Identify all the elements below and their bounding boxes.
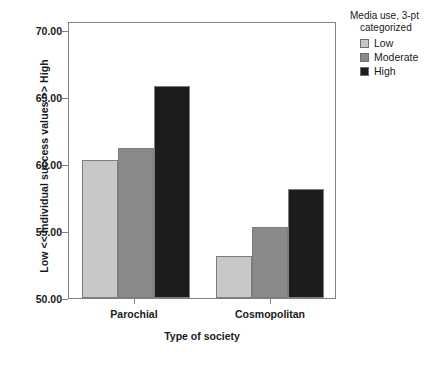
legend-item-high: High (350, 65, 440, 77)
y-axis-tick-labels: 70.00 65.00 60.00 55.00 50.00 (18, 0, 62, 366)
bar-cosmopolitan-high (288, 189, 324, 298)
legend-label: Low (374, 37, 393, 49)
bar-parochial-low (82, 160, 118, 299)
y-tick-label: 50.00 (18, 294, 62, 305)
legend-title: Media use, 3-pt categorized (350, 10, 440, 34)
bars-layer (69, 23, 335, 298)
y-tick-label: 60.00 (18, 160, 62, 171)
legend-swatch-moderate-icon (360, 53, 369, 62)
bar-cosmopolitan-moderate (252, 227, 288, 298)
legend-items: LowModerateHigh (350, 37, 440, 77)
legend-label: Moderate (374, 51, 418, 63)
y-tick-mark (62, 299, 68, 300)
bar-cosmopolitan-low (216, 256, 252, 298)
bar-parochial-moderate (118, 148, 154, 298)
bar-parochial-high (154, 86, 190, 298)
x-tick-mark (134, 299, 135, 304)
legend-item-moderate: Moderate (350, 51, 440, 63)
legend-swatch-low-icon (360, 39, 369, 48)
plot-area (68, 22, 336, 299)
legend-title-line-2: categorized (350, 22, 440, 34)
x-axis-title: Type of society (68, 330, 336, 342)
legend-swatch-high-icon (360, 67, 369, 76)
y-tick-label: 55.00 (18, 227, 62, 238)
y-tick-label: 65.00 (18, 93, 62, 104)
y-tick-label: 70.00 (18, 26, 62, 37)
legend-label: High (374, 65, 396, 77)
legend-title-line-1: Media use, 3-pt (350, 10, 440, 22)
bar-chart: Low << Individual success values >> High… (0, 0, 440, 366)
x-category-label-cosmopolitan: Cosmopolitan (218, 308, 322, 320)
x-category-label-parochial: Parochial (84, 308, 184, 320)
legend-item-low: Low (350, 37, 440, 49)
x-tick-mark (270, 299, 271, 304)
legend: Media use, 3-pt categorized LowModerateH… (350, 10, 440, 79)
